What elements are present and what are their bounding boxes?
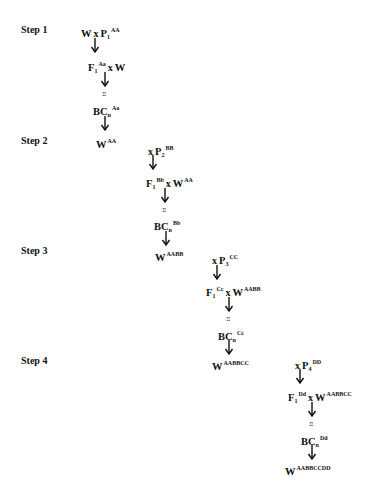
bc-genotype: Aa xyxy=(112,105,119,111)
bc-genotype: Cc xyxy=(237,330,244,336)
step-1-result: WAA xyxy=(96,135,116,151)
down-arrow-icon xyxy=(224,297,234,312)
f1-genotype: Dd xyxy=(298,391,306,397)
down-arrow-icon xyxy=(90,38,100,53)
continuation-dots: :: xyxy=(162,206,165,214)
down-arrow-icon xyxy=(100,72,110,87)
recurrent-genotype: AA xyxy=(184,177,193,183)
result-line: W xyxy=(96,139,107,150)
donor-genotype: DD xyxy=(312,359,321,365)
recurrent-genotype: AABB xyxy=(244,286,261,292)
donor-genotype: AA xyxy=(111,27,120,33)
step-1-label: Step 1 xyxy=(21,24,47,35)
donor-genotype: CC xyxy=(229,254,238,260)
f1-index: 1 xyxy=(212,293,215,299)
f1-index: 1 xyxy=(94,68,97,74)
result-genotype: AABBCCDD xyxy=(297,465,331,471)
f1-genotype: Bb xyxy=(156,177,163,183)
f1-genotype: Aa xyxy=(98,61,105,67)
bc-genotype: Bb xyxy=(173,220,180,226)
recurrent-parent: W xyxy=(115,62,126,73)
step-3-label: Step 3 xyxy=(21,245,47,256)
result-line: W xyxy=(155,252,166,263)
continuation-dots: :: xyxy=(226,315,229,323)
down-arrow-icon xyxy=(148,155,158,170)
recurrent-parent: W xyxy=(173,178,184,189)
result-genotype: AABBCC xyxy=(224,360,249,366)
down-arrow-icon xyxy=(160,188,170,203)
result-line: W xyxy=(285,466,296,477)
continuation-dots: :: xyxy=(102,90,105,98)
step-2-result: WAABB xyxy=(155,248,183,264)
result-genotype: AA xyxy=(108,138,117,144)
result-line: W xyxy=(212,361,223,372)
donor-parent-index: 3 xyxy=(225,261,228,267)
down-arrow-icon xyxy=(307,445,317,460)
down-arrow-icon xyxy=(100,116,110,131)
result-genotype: AABB xyxy=(167,251,184,257)
f1-index: 1 xyxy=(294,398,297,404)
down-arrow-icon xyxy=(212,265,222,280)
down-arrow-icon xyxy=(307,402,317,417)
donor-parent-index: 1 xyxy=(107,34,110,40)
step-3-result: WAABBCC xyxy=(212,357,249,373)
down-arrow-icon xyxy=(224,340,234,355)
donor-genotype: BB xyxy=(165,145,173,151)
donor-parent-index: 4 xyxy=(308,366,311,372)
step-2-label: Step 2 xyxy=(21,135,47,146)
step-4-result: WAABBCCDD xyxy=(285,462,331,478)
down-arrow-icon xyxy=(161,231,171,246)
bc-genotype: Dd xyxy=(320,435,328,441)
continuation-dots: :: xyxy=(309,420,312,428)
step-4-f1-backcross: F1DdxWAABBCC xyxy=(288,388,352,407)
f1-genotype: Cc xyxy=(216,286,223,292)
step-4-label: Step 4 xyxy=(21,355,47,366)
donor-parent-index: 2 xyxy=(161,152,164,158)
down-arrow-icon xyxy=(295,369,305,384)
f1-index: 1 xyxy=(152,184,155,190)
recurrent-genotype: AABBCC xyxy=(327,391,352,397)
step-1-initial-cross: WxP1AA xyxy=(81,24,120,43)
